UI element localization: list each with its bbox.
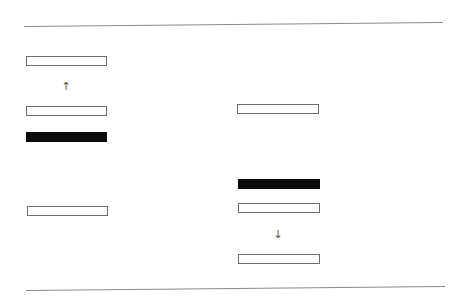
left-filled-box-3 (26, 132, 107, 142)
diagram: ↑↓ (0, 0, 467, 303)
bottom-rule (26, 286, 445, 291)
left-empty-box-2 (26, 106, 107, 116)
arrow-up-icon: ↑ (61, 81, 71, 92)
left-empty-box-0 (26, 56, 107, 66)
right-empty-box-0 (237, 104, 319, 114)
arrow-down-icon: ↓ (273, 229, 283, 240)
right-empty-box-2 (238, 203, 320, 213)
right-filled-box-1 (238, 179, 320, 189)
right-empty-box-4 (238, 254, 320, 264)
left-empty-box-4 (27, 206, 108, 216)
top-rule (24, 22, 443, 27)
